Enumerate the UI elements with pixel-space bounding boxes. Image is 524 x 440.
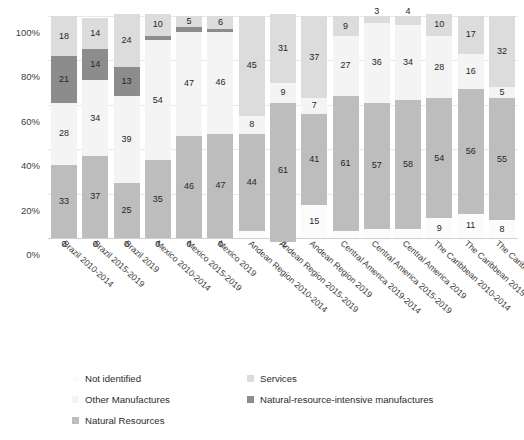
bar-segment[interactable]: 54 bbox=[426, 98, 452, 218]
bar-segment-value: 24 bbox=[122, 36, 132, 45]
bar-column[interactable]: 458344 bbox=[395, 16, 421, 238]
bar-segment[interactable]: 21 bbox=[51, 56, 77, 103]
bar-segment[interactable]: 3 bbox=[239, 231, 265, 238]
bar-segment[interactable]: 57 bbox=[364, 103, 390, 230]
bar-segment[interactable]: 46 bbox=[207, 32, 233, 134]
bar-segment[interactable]: 2 bbox=[145, 36, 171, 40]
bar-column[interactable]: 033282118 bbox=[51, 16, 77, 238]
bar-column[interactable]: 1541737 bbox=[301, 16, 327, 238]
bar-column[interactable]: 361279 bbox=[333, 16, 359, 238]
bar-segment[interactable]: 1 bbox=[207, 29, 233, 31]
bar-segment[interactable]: 58 bbox=[395, 100, 421, 229]
legend-swatch-icon bbox=[72, 396, 79, 403]
bar-segment-value: 46 bbox=[184, 182, 194, 191]
bar-segment-value: 8 bbox=[249, 120, 254, 129]
legend-item[interactable]: Other Manufactures bbox=[72, 389, 247, 410]
bar-segment[interactable]: 27 bbox=[333, 36, 359, 96]
bar-segment[interactable]: 37 bbox=[301, 16, 327, 98]
bar-segment-value: 9 bbox=[437, 224, 442, 233]
bar-segment-value: 34 bbox=[403, 58, 413, 67]
bar-segment[interactable]: 15 bbox=[301, 205, 327, 238]
bar-column[interactable]: 0474616 bbox=[207, 16, 233, 238]
bar-segment[interactable]: 44 bbox=[239, 134, 265, 232]
bar-column[interactable]: 11561617 bbox=[458, 16, 484, 238]
bar-segment[interactable]: 7 bbox=[301, 98, 327, 114]
legend-item[interactable]: Services bbox=[247, 368, 512, 389]
bar-segment-value: 61 bbox=[341, 159, 351, 168]
bar-segment[interactable]: 46 bbox=[176, 136, 202, 238]
bar-segment[interactable]: 5 bbox=[176, 16, 202, 27]
bar-segment-value: 45 bbox=[247, 61, 257, 70]
bar-column[interactable]: -261931 bbox=[270, 16, 296, 238]
bar-segment[interactable]: 47 bbox=[207, 134, 233, 238]
bar-segment[interactable]: 28 bbox=[51, 103, 77, 165]
bar-segment[interactable]: 34 bbox=[82, 80, 108, 155]
bar-segment-value: 54 bbox=[153, 96, 163, 105]
bar-segment[interactable]: 3 bbox=[333, 231, 359, 238]
legend-label: Natural Resources bbox=[85, 415, 164, 426]
bar-segment[interactable]: 61 bbox=[333, 96, 359, 231]
legend-item[interactable]: Natural Resources bbox=[72, 410, 247, 431]
bar-segment[interactable]: 6 bbox=[207, 16, 233, 29]
bar-segment[interactable]: 36 bbox=[364, 23, 390, 103]
bar-column[interactable]: 855532 bbox=[489, 16, 515, 238]
bar-segment[interactable]: 13 bbox=[114, 67, 140, 96]
bar-segment[interactable]: 56 bbox=[458, 89, 484, 213]
bar-segment-value: 8 bbox=[499, 225, 504, 234]
bar-segment[interactable]: 14 bbox=[82, 49, 108, 80]
bar-segment[interactable]: 4 bbox=[364, 229, 390, 238]
bar-segment[interactable]: 10 bbox=[145, 14, 171, 36]
bar-segment[interactable]: 2 bbox=[176, 27, 202, 31]
bar-segment[interactable]: 9 bbox=[270, 83, 296, 103]
bar-segment[interactable]: 32 bbox=[489, 16, 515, 87]
bar-segment-value: 16 bbox=[466, 67, 476, 76]
bar-segment[interactable]: 4 bbox=[395, 229, 421, 238]
bar-stack: 37341414 bbox=[82, 18, 108, 238]
bar-segment[interactable]: 28 bbox=[426, 36, 452, 98]
bar-segment[interactable]: 8 bbox=[239, 116, 265, 134]
bar-segment[interactable]: 9 bbox=[333, 16, 359, 36]
x-axis-label: Mexico 2015-2019 bbox=[184, 238, 243, 293]
bar-segment-value: 10 bbox=[434, 20, 444, 29]
bar-segment[interactable]: 34 bbox=[395, 25, 421, 100]
bar-segment-value: 21 bbox=[59, 75, 69, 84]
bar-segment[interactable]: 9 bbox=[426, 218, 452, 238]
bar-segment[interactable]: 25 bbox=[114, 183, 140, 239]
bar-column[interactable]: 457363 bbox=[364, 16, 390, 238]
bar-segment-value: 36 bbox=[372, 58, 382, 67]
bar-column[interactable]: 03554210 bbox=[145, 16, 171, 238]
bar-segment-value: 7 bbox=[312, 101, 317, 110]
legend-item[interactable]: Not identified bbox=[72, 368, 247, 389]
bar-segment-value: 31 bbox=[278, 44, 288, 53]
bar-segment[interactable]: 18 bbox=[51, 16, 77, 56]
bar-segment[interactable]: 54 bbox=[145, 40, 171, 160]
bar-column[interactable]: 0464725 bbox=[176, 16, 202, 238]
bar-segment[interactable]: 14 bbox=[82, 18, 108, 49]
bar-segment[interactable]: 3 bbox=[364, 16, 390, 23]
bar-segment[interactable]: 8 bbox=[489, 220, 515, 238]
legend-item[interactable]: Natural-resource-intensive manufactures bbox=[247, 389, 512, 410]
bar-segment-value: 28 bbox=[59, 129, 69, 138]
bar-column[interactable]: 025391324 bbox=[114, 16, 140, 238]
bar-segment[interactable]: 39 bbox=[114, 96, 140, 183]
bar-segment[interactable]: 35 bbox=[145, 160, 171, 238]
bar-segment[interactable]: 47 bbox=[176, 32, 202, 136]
bar-segment[interactable]: 10 bbox=[426, 14, 452, 36]
bar-column[interactable]: 037341414 bbox=[82, 16, 108, 238]
bar-segment[interactable]: 55 bbox=[489, 98, 515, 220]
bar-segment[interactable]: 16 bbox=[458, 54, 484, 90]
bar-segment[interactable]: 37 bbox=[82, 156, 108, 238]
bar-column[interactable]: 9542810 bbox=[426, 16, 452, 238]
legend-swatch-icon bbox=[72, 417, 79, 424]
bar-segment[interactable]: 33 bbox=[51, 165, 77, 238]
bar-segment[interactable]: 11 bbox=[458, 214, 484, 238]
bar-column[interactable]: 344845 bbox=[239, 16, 265, 238]
bar-segment[interactable]: 4 bbox=[395, 16, 421, 25]
bar-segment[interactable]: 61 bbox=[270, 103, 296, 238]
bar-segment[interactable]: 45 bbox=[239, 16, 265, 116]
bar-segment[interactable]: 5 bbox=[489, 87, 515, 98]
bar-segment[interactable]: 24 bbox=[114, 14, 140, 67]
bar-segment[interactable]: 17 bbox=[458, 16, 484, 54]
bar-segment[interactable]: 31 bbox=[270, 14, 296, 83]
bar-segment[interactable]: 41 bbox=[301, 114, 327, 205]
